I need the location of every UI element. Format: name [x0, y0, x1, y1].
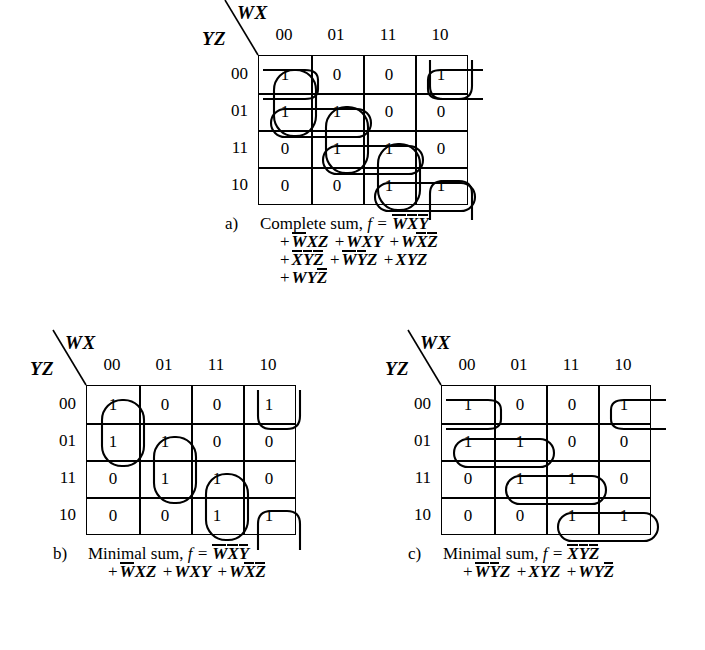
kmap-a-caption-fn: f =	[367, 214, 387, 233]
kmap-a-cell-r0c1: 0	[311, 56, 363, 93]
kmap-b-cell-r3c3: 1	[243, 497, 295, 534]
kmap-b-cell-r1c0: 1	[87, 423, 139, 460]
kmap-a-col-header-2: 11	[362, 25, 414, 45]
kmap-c-col-header-1: 01	[493, 355, 545, 375]
kmap-a-caption: Complete sum, f = WXY +WXZ +WXY +WXZ +XY…	[260, 214, 438, 286]
kmap-b-cell-r2c0: 0	[87, 460, 139, 497]
kmap-c-row-header-1: 01	[401, 431, 431, 451]
kmap-a-cell-r2c1: 1	[311, 130, 363, 167]
kmap-c-caption-letter: c)	[408, 544, 421, 564]
kmap-b-caption: Minimal sum, f = WXY +WXZ +WXY +WXZ	[88, 544, 266, 580]
kmap-a-cell-r2c3: 0	[415, 130, 467, 167]
kmap-a-caption-letter: a)	[225, 214, 238, 234]
kmap-b-cell-r3c0: 0	[87, 497, 139, 534]
kmap-c-cell-r1c1: 1	[494, 423, 546, 460]
kmap-b-grid: 1 0 0 1 1 1 0 0 0 1 1 0 0 0 1 1	[86, 385, 296, 535]
kmap-c-cell-r1c0: 1	[442, 423, 494, 460]
kmap-c-col-header-2: 11	[545, 355, 597, 375]
kmap-c-cell-r0c3: 1	[598, 386, 650, 423]
kmap-c-cell-r2c1: 1	[494, 460, 546, 497]
kmap-a-col-header-0: 00	[258, 25, 310, 45]
kmap-a-col-header-3: 10	[414, 25, 466, 45]
kmap-b: WX YZ 00 01 11 10 00 01 11 10 1 0 0 1 1 …	[28, 330, 358, 630]
kmap-b-cell-r0c0: 1	[87, 386, 139, 423]
kmap-b-cell-r1c1: 1	[139, 423, 191, 460]
kmap-c-cell-r3c0: 0	[442, 497, 494, 534]
kmap-b-cell-r2c1: 1	[139, 460, 191, 497]
kmap-b-cell-r0c2: 0	[191, 386, 243, 423]
kmap-a-cell-r1c1: 1	[311, 93, 363, 130]
kmap-c-row-header-2: 11	[401, 468, 431, 488]
kmap-b-cell-r0c3: 1	[243, 386, 295, 423]
kmap-c-row-header-0: 00	[401, 394, 431, 414]
kmap-c-cell-r0c1: 0	[494, 386, 546, 423]
kmap-c-col-header-3: 10	[597, 355, 649, 375]
kmap-a-caption-prefix: Complete sum,	[260, 214, 367, 233]
kmap-b-row-header-2: 11	[46, 468, 76, 488]
kmap-c-cell-r3c2: 1	[546, 497, 598, 534]
kmap-a-cell-r1c2: 0	[363, 93, 415, 130]
kmap-a-cell-r1c0: 1	[259, 93, 311, 130]
kmap-a-cell-r3c1: 0	[311, 167, 363, 204]
kmap-c-cell-r3c1: 0	[494, 497, 546, 534]
kmap-b-col-header-1: 01	[138, 355, 190, 375]
kmap-a-row-header-0: 00	[218, 64, 248, 84]
kmap-a-row-header-2: 11	[218, 138, 248, 158]
kmap-b-caption-prefix: Minimal sum,	[88, 544, 188, 563]
kmap-b-caption-letter: b)	[53, 544, 67, 564]
kmap-b-cell-r2c2: 1	[191, 460, 243, 497]
kmap-c-caption-prefix: Minimal sum,	[443, 544, 543, 563]
kmap-b-cell-r3c2: 1	[191, 497, 243, 534]
kmap-b-col-header-2: 11	[190, 355, 242, 375]
kmap-c-grid: 1 0 0 1 1 1 0 0 0 1 1 0 0 0 1 1	[441, 385, 651, 535]
kmap-c-cell-r2c0: 0	[442, 460, 494, 497]
kmap-a-cell-r2c2: 1	[363, 130, 415, 167]
kmap-b-caption-fn: f =	[188, 544, 208, 563]
kmap-c-col-header-0: 00	[441, 355, 493, 375]
kmap-a-cell-r0c2: 0	[363, 56, 415, 93]
kmap-a-cell-r0c0: 1	[259, 56, 311, 93]
kmap-c-cell-r2c3: 0	[598, 460, 650, 497]
kmap-c-cell-r1c3: 0	[598, 423, 650, 460]
kmap-c-caption: Minimal sum, f = XYZ +WYZ +XYZ +WYZ	[443, 544, 614, 580]
kmap-b-cell-r1c3: 0	[243, 423, 295, 460]
kmap-a-cell-r3c0: 0	[259, 167, 311, 204]
kmap-c-row-header-3: 10	[401, 505, 431, 525]
kmap-b-cell-r2c3: 0	[243, 460, 295, 497]
kmap-a-cell-r2c0: 0	[259, 130, 311, 167]
kmap-a-cell-r1c3: 0	[415, 93, 467, 130]
kmap-c-cell-r1c2: 0	[546, 423, 598, 460]
kmap-a-row-header-3: 10	[218, 175, 248, 195]
kmap-b-cell-r1c2: 0	[191, 423, 243, 460]
kmap-b-cell-r3c1: 0	[139, 497, 191, 534]
kmap-a-col-header-1: 01	[310, 25, 362, 45]
kmap-a-cell-r0c3: 1	[415, 56, 467, 93]
kmap-c-cell-r3c3: 1	[598, 497, 650, 534]
kmap-a-row-header-1: 01	[218, 101, 248, 121]
kmap-b-cell-r0c1: 0	[139, 386, 191, 423]
kmap-c-cell-r2c2: 1	[546, 460, 598, 497]
kmap-b-row-header-3: 10	[46, 505, 76, 525]
kmap-a-cell-r3c2: 1	[363, 167, 415, 204]
kmap-b-col-header-0: 00	[86, 355, 138, 375]
kmap-b-row-header-1: 01	[46, 431, 76, 451]
kmap-a-grid: 1 0 0 1 1 1 0 0 0 1 1 0 0 0 1 1	[258, 55, 468, 205]
kmap-c-cell-r0c0: 1	[442, 386, 494, 423]
kmap-b-row-header-0: 00	[46, 394, 76, 414]
kmap-c-caption-fn: f =	[543, 544, 563, 563]
kmap-b-col-header-3: 10	[242, 355, 294, 375]
kmap-a-cell-r3c3: 1	[415, 167, 467, 204]
kmap-c: WX YZ 00 01 11 10 00 01 11 10 1 0 0 1 1 …	[383, 330, 705, 630]
kmap-a: WX YZ 00 01 11 10 00 01 11 10 1 0 0 1 1 …	[200, 0, 500, 320]
kmap-c-cell-r0c2: 0	[546, 386, 598, 423]
